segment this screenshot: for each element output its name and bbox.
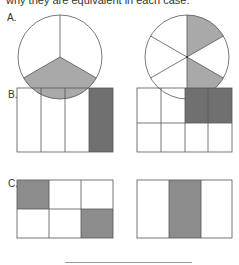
- rect-thirds: [137, 180, 232, 238]
- circle-thirds: [18, 15, 102, 99]
- rect-sixths: [17, 180, 113, 238]
- answer-line: [65, 262, 192, 263]
- rect-eighths: [137, 88, 232, 152]
- rect-fourths: [17, 88, 113, 152]
- fraction-diagrams: [0, 0, 239, 265]
- circle-sixths: [145, 15, 229, 99]
